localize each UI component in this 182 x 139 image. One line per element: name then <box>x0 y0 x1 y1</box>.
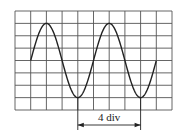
oscilloscope-diagram: 4 div <box>0 0 182 139</box>
period-label: 4 div <box>98 111 121 123</box>
arrowhead-right-icon <box>135 123 141 127</box>
arrowhead-left-icon <box>78 123 84 127</box>
